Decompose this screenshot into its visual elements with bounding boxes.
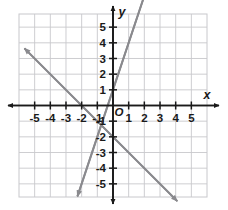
x-tick-label--5: -5 bbox=[30, 112, 41, 124]
x-axis-label: x bbox=[203, 88, 212, 102]
y-axis-label: y bbox=[118, 5, 127, 19]
y-tick-label--5: -5 bbox=[96, 178, 107, 190]
x-tick-label-1: 1 bbox=[125, 112, 132, 124]
x-tick-label-4: 4 bbox=[172, 112, 179, 124]
x-tick-label--4: -4 bbox=[45, 112, 56, 124]
y-tick-label--3: -3 bbox=[96, 147, 106, 159]
x-tick-label-2: 2 bbox=[141, 112, 147, 124]
coordinate-plane-figure: -5-4-3-2-11234554321-1-2-3-4-5 x y O bbox=[0, 0, 228, 210]
y-tick-label-5: 5 bbox=[100, 21, 107, 33]
y-tick-label--4: -4 bbox=[96, 162, 107, 174]
y-tick-label--1: -1 bbox=[96, 115, 107, 127]
y-tick-label-1: 1 bbox=[100, 84, 107, 96]
y-tick-label--2: -2 bbox=[96, 131, 106, 143]
origin-label: O bbox=[115, 106, 124, 118]
graph-canvas: -5-4-3-2-11234554321-1-2-3-4-5 x y O bbox=[0, 0, 228, 210]
y-tick-label-2: 2 bbox=[100, 68, 106, 80]
y-tick-label-3: 3 bbox=[100, 53, 106, 65]
y-tick-label-4: 4 bbox=[100, 37, 107, 49]
x-tick-label--3: -3 bbox=[61, 112, 71, 124]
x-tick-label-5: 5 bbox=[188, 112, 195, 124]
x-tick-label-3: 3 bbox=[157, 112, 163, 124]
x-tick-label--2: -2 bbox=[77, 112, 87, 124]
